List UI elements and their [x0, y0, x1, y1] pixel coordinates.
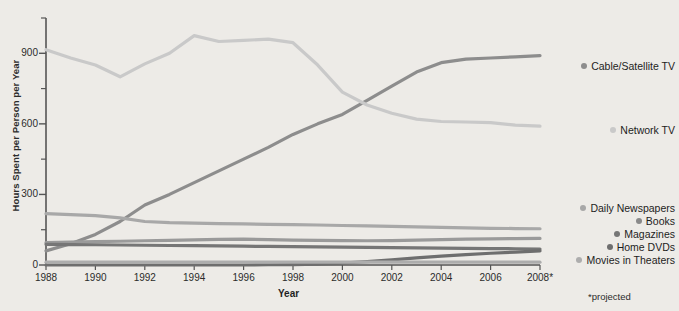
legend-item[interactable]: Network TV — [610, 124, 675, 136]
y-tick-label: 300 — [8, 188, 38, 199]
x-tick-label: 2008* — [517, 272, 563, 283]
legend-item[interactable]: Books — [636, 215, 675, 227]
legend-label: Movies in Theaters — [586, 254, 675, 266]
legend-swatch-icon — [580, 205, 586, 211]
chart-root: Hours Spent per Person per Year 03006009… — [0, 0, 679, 311]
legend-label: Books — [646, 215, 675, 227]
legend-swatch-icon — [576, 257, 582, 263]
x-tick-label: 1990 — [72, 272, 118, 283]
series-line — [46, 36, 540, 127]
series-line — [46, 244, 540, 249]
legend-item[interactable]: Movies in Theaters — [576, 254, 675, 266]
series-line — [46, 238, 540, 242]
legend-item[interactable]: Daily Newspapers — [580, 202, 675, 214]
x-tick-label: 1994 — [171, 272, 217, 283]
legend-swatch-icon — [581, 63, 587, 69]
x-tick-label: 2006 — [468, 272, 514, 283]
x-tick-label: 2000 — [319, 272, 365, 283]
x-tick-label: 1996 — [221, 272, 267, 283]
legend-item[interactable]: Cable/Satellite TV — [581, 60, 675, 72]
legend-swatch-icon — [610, 127, 616, 133]
legend-label: Magazines — [624, 228, 675, 240]
x-tick-label: 1998 — [270, 272, 316, 283]
footnote-projected: *projected — [588, 291, 631, 302]
legend-swatch-icon — [614, 231, 620, 237]
y-axis-title: Hours Spent per Person per Year — [10, 36, 21, 236]
legend-swatch-icon — [636, 218, 642, 224]
y-tick-label: 600 — [8, 118, 38, 129]
legend-swatch-icon — [607, 244, 613, 250]
legend-item[interactable]: Home DVDs — [607, 241, 675, 253]
x-tick-label: 1992 — [122, 272, 168, 283]
y-tick-label: 0 — [8, 259, 38, 270]
legend-label: Home DVDs — [617, 241, 675, 253]
legend-label: Daily Newspapers — [590, 202, 675, 214]
series-line — [46, 56, 540, 251]
x-axis-title: Year — [278, 288, 299, 299]
legend-label: Cable/Satellite TV — [591, 60, 675, 72]
x-tick-label: 1988 — [23, 272, 69, 283]
x-tick-label: 2004 — [418, 272, 464, 283]
y-tick-label: 900 — [8, 47, 38, 58]
x-tick-label: 2002 — [369, 272, 415, 283]
legend-item[interactable]: Magazines — [614, 228, 675, 240]
legend-label: Network TV — [620, 124, 675, 136]
